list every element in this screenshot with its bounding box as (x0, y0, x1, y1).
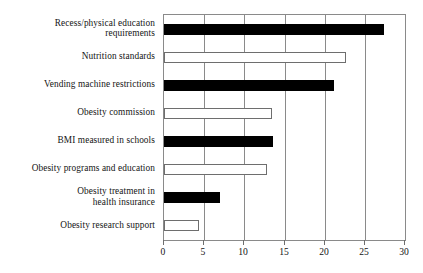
x-tick-mark (203, 240, 204, 245)
x-tick-mark (284, 240, 285, 245)
x-tick-label: 30 (399, 246, 409, 257)
x-tick-mark (324, 240, 325, 245)
x-tick-label: 10 (238, 246, 248, 257)
category-label: Obesity commission (0, 107, 155, 117)
x-tick-label: 20 (319, 246, 329, 257)
x-tick-mark (404, 240, 405, 245)
category-axis-labels: Recess/physical education requirementsNu… (0, 14, 159, 239)
bar (164, 52, 346, 63)
x-tick-mark (163, 240, 164, 245)
x-tick-label: 5 (201, 246, 206, 257)
bar (164, 108, 272, 119)
category-label: Obesity research support (0, 220, 155, 230)
category-label: Obesity programs and education (0, 163, 155, 173)
x-tick-mark (364, 240, 365, 245)
category-label: Vending machine restrictions (0, 79, 155, 89)
bar (164, 24, 384, 35)
bar (164, 192, 220, 203)
bar (164, 80, 334, 91)
plot-area (163, 14, 406, 241)
x-axis: 051015202530 (163, 240, 404, 266)
category-label: Recess/physical education requirements (0, 18, 155, 39)
category-label: Nutrition standards (0, 51, 155, 61)
bar (164, 164, 267, 175)
bars-layer (164, 15, 405, 240)
x-tick-mark (243, 240, 244, 245)
category-label: Obesity treatment in health insurance (0, 186, 155, 207)
x-tick-label: 25 (359, 246, 369, 257)
category-label: BMI measured in schools (0, 135, 155, 145)
bar (164, 136, 273, 147)
bar-chart: Recess/physical education requirementsNu… (0, 0, 423, 273)
bar (164, 220, 199, 231)
x-tick-label: 15 (279, 246, 289, 257)
x-tick-label: 0 (161, 246, 166, 257)
